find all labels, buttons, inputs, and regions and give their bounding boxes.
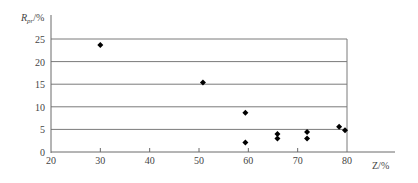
- data-points: [97, 42, 348, 146]
- diamond-marker: [242, 110, 248, 116]
- y-tick-label: 20: [35, 57, 45, 68]
- y-tick-label: 10: [35, 102, 45, 113]
- x-axis-label: Z/%: [372, 160, 389, 171]
- x-tick-label: 30: [95, 155, 105, 166]
- diamond-marker: [336, 124, 342, 130]
- diamond-marker: [304, 135, 310, 141]
- x-tick-labels: 20304050607080: [46, 155, 352, 166]
- y-tick-label: 25: [35, 34, 45, 45]
- x-tick-label: 20: [46, 155, 56, 166]
- y-axis-label-unit: /%: [33, 12, 44, 23]
- y-tick-labels: 0510152025: [35, 34, 45, 158]
- y-tick-label: 15: [35, 79, 45, 90]
- diamond-marker: [242, 140, 248, 146]
- x-tick-label: 70: [293, 155, 303, 166]
- x-tick-label: 50: [194, 155, 204, 166]
- x-tick-label: 40: [145, 155, 155, 166]
- y-tick-label: 0: [40, 147, 45, 158]
- x-tick-label: 60: [243, 155, 253, 166]
- diamond-marker: [274, 135, 280, 141]
- y-axis-label: Rpr/%: [21, 12, 44, 25]
- scatter-chart: 0510152025 20304050607080: [0, 0, 418, 183]
- gridlines: [51, 39, 347, 129]
- diamond-marker: [304, 129, 310, 135]
- x-tick-label: 80: [342, 155, 352, 166]
- diamond-marker: [97, 42, 103, 48]
- y-tick-label: 5: [40, 124, 45, 135]
